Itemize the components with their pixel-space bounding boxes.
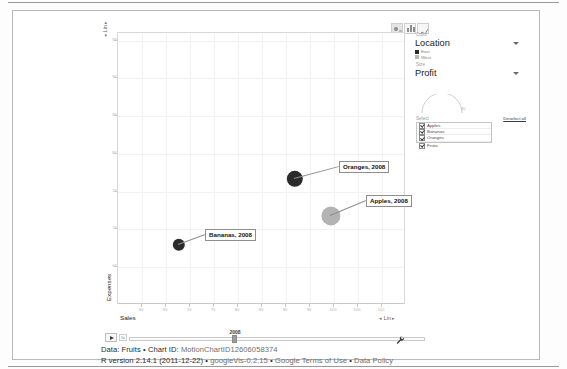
timeline-slider-knob[interactable] (232, 335, 237, 343)
x-axis-tick-mark (165, 304, 166, 307)
x-axis-tick-label: 95 (301, 308, 317, 312)
gridline-horizontal (118, 116, 404, 117)
footer-separator: • (141, 345, 148, 354)
gridline-horizontal (118, 229, 404, 230)
playback-controls[interactable]: 1x 2008 (105, 332, 465, 345)
x-axis-tick-mark (237, 304, 238, 307)
select-item-label: Bananas (427, 129, 444, 134)
x-axis-tick-mark (141, 304, 142, 307)
select-item-label: Oranges (427, 135, 444, 140)
x-axis-tick-label: 65 (157, 308, 173, 312)
footer-line-2: R version 2.14.1 (2011-12-22) • googleVi… (101, 356, 521, 367)
color-variable-select[interactable]: Location (415, 38, 519, 49)
x-axis-tick-label: 60 (133, 308, 149, 312)
timeline-current-year: 2008 (221, 329, 249, 335)
motion-chart-card: ◂ Lin ▸ ◂ Lin ▸ Expenses Sales 657075808… (12, 10, 540, 360)
gridline-vertical (142, 33, 143, 303)
footer-data-source: Data: Fruits (101, 345, 141, 354)
select-list-item[interactable]: Oranges (417, 135, 491, 141)
footer-r-version: R version 2.14.1 (2011-12-22) (101, 356, 203, 365)
size-variable-select[interactable]: Profit (415, 68, 519, 79)
x-axis-scale-selector[interactable]: ◂ Lin ▸ (379, 315, 396, 321)
timeline-slider-track[interactable] (129, 337, 425, 341)
x-axis-scale-value: Lin (384, 315, 391, 321)
color-legend: EastWest (415, 49, 531, 60)
y-axis-title: Expenses (105, 274, 112, 301)
select-section-label: Select (416, 116, 429, 121)
color-variable-value: Location (415, 38, 450, 49)
settings-wrench-icon[interactable] (395, 335, 405, 345)
footer-terms-link[interactable]: Google Terms of Use (275, 356, 347, 365)
color-section-label: Color (416, 32, 531, 37)
x-axis-tick-label: 75 (205, 308, 221, 312)
data-point-label[interactable]: Bananas, 2008 (205, 229, 256, 241)
top-divider (8, 2, 559, 3)
y-scale-caret-right-icon: ▸ (103, 20, 108, 23)
play-button[interactable] (105, 333, 117, 342)
checkbox-checked-icon[interactable] (419, 129, 425, 135)
gridline-horizontal (118, 41, 404, 42)
size-scale-arc[interactable] (419, 94, 465, 114)
legend-swatch-icon (415, 50, 419, 54)
x-axis-tick-label: 85 (253, 308, 269, 312)
footer-line-1: Data: Fruits • Chart ID: MotionChartID12… (101, 345, 521, 356)
legend-item-label: West (421, 55, 431, 60)
gridline-vertical (262, 33, 263, 303)
gridline-horizontal (118, 78, 404, 79)
gridline-horizontal (118, 192, 404, 193)
x-axis-tick-mark (189, 304, 190, 307)
color-legend-item[interactable]: East (415, 49, 531, 54)
chevron-down-icon (513, 72, 519, 75)
gridline-horizontal (118, 154, 404, 155)
footer-policy-link[interactable]: Data Policy (354, 356, 393, 365)
data-point-label[interactable]: Oranges, 2008 (339, 161, 389, 173)
deselect-all-link[interactable]: Deselect all (503, 116, 526, 121)
x-scale-caret-right-icon: ▸ (392, 316, 395, 321)
checkbox-checked-icon[interactable] (419, 143, 425, 149)
select-header: Select Deselect all (416, 116, 526, 121)
legend-item-label: East (421, 49, 430, 54)
gridline-vertical (190, 33, 191, 303)
size-scale-value: 10 (461, 106, 465, 111)
x-axis-tick-label: 90 (277, 308, 293, 312)
chart-control-panel[interactable]: Color Location EastWest Size Profit 10 S… (415, 32, 531, 150)
size-section-label: Size (416, 62, 531, 67)
select-list-item[interactable]: Fruits (417, 143, 493, 149)
x-axis-tick-mark (285, 304, 286, 307)
motion-chart: ◂ Lin ▸ ◂ Lin ▸ Expenses Sales 657075808… (17, 15, 535, 357)
page-root: ◂ Lin ▸ ◂ Lin ▸ Expenses Sales 657075808… (0, 0, 567, 369)
data-bubble[interactable] (287, 171, 303, 187)
y-axis-scale-value: Lin (102, 25, 108, 32)
legend-swatch-icon (415, 55, 419, 59)
entity-select-list[interactable]: ApplesBananasOrangesFruits (416, 122, 492, 143)
footer-chart-id-value: MotionChartID12606058374 (181, 345, 278, 354)
playback-speed-select[interactable]: 1x (119, 334, 127, 341)
gridline-vertical (214, 33, 215, 303)
x-axis-tick-label: 105 (349, 308, 365, 312)
x-axis-tick-label: 110 (373, 308, 389, 312)
footer-separator: • (268, 356, 275, 365)
footer-chart-id-label: Chart ID: (148, 345, 181, 354)
chart-footer: Data: Fruits • Chart ID: MotionChartID12… (101, 345, 521, 366)
data-point-label[interactable]: Apples, 2008 (366, 195, 412, 207)
y-axis-scale-selector[interactable]: ◂ Lin ▸ (102, 20, 108, 37)
data-bubble[interactable] (321, 206, 340, 225)
y-scale-caret-left-icon: ◂ (103, 34, 108, 37)
gridline-vertical (238, 33, 239, 303)
gridline-vertical (310, 33, 311, 303)
bottom-divider (8, 366, 559, 367)
color-legend-item[interactable]: West (415, 55, 531, 60)
gridline-vertical (166, 33, 167, 303)
play-icon (110, 336, 114, 340)
x-axis-tick-mark (381, 304, 382, 307)
x-axis-tick-mark (309, 304, 310, 307)
size-variable-value: Profit (415, 68, 436, 79)
x-axis-tick-label: 80 (229, 308, 245, 312)
select-item-label: Apples (427, 123, 440, 128)
checkbox-checked-icon[interactable] (419, 135, 425, 141)
x-scale-caret-left-icon: ◂ (379, 316, 382, 321)
wrench-icon (395, 335, 405, 345)
gridline-horizontal (118, 267, 404, 268)
x-axis-tick-mark (357, 304, 358, 307)
footer-googlevis-version[interactable]: googleVis-0.2.15 (210, 356, 268, 365)
